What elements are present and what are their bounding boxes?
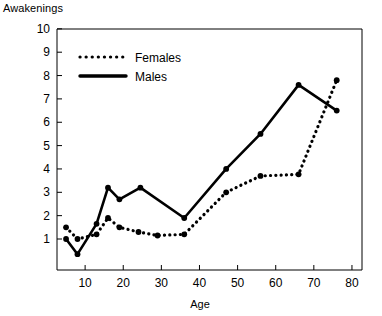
data-point: [223, 166, 229, 172]
data-point: [334, 77, 340, 83]
y-axis-tick-labels: 12345678910: [37, 22, 51, 246]
y-tick-label: 1: [43, 232, 50, 246]
data-point: [94, 221, 100, 227]
x-tick-label: 20: [117, 276, 131, 290]
data-point: [105, 185, 111, 191]
awakenings-line-chart: Awakenings 12345678910 1020304050607080 …: [0, 0, 382, 316]
x-tick-label: 60: [269, 276, 283, 290]
data-series-layer: [63, 77, 339, 257]
data-point: [181, 231, 187, 237]
x-tick-label: 30: [155, 276, 169, 290]
data-point: [117, 196, 123, 202]
data-point: [105, 215, 111, 221]
x-tick-label: 80: [345, 276, 359, 290]
data-point: [258, 173, 264, 179]
data-point: [155, 233, 161, 239]
y-tick-label: 7: [43, 92, 50, 106]
legend-label-males: Males: [135, 70, 167, 84]
data-point: [75, 251, 81, 257]
data-point: [223, 189, 229, 195]
data-point: [75, 236, 81, 242]
y-axis-ticks: [57, 29, 62, 239]
data-point: [258, 131, 264, 137]
chart-legend: FemalesMales: [80, 51, 181, 84]
y-tick-label: 5: [43, 139, 50, 153]
x-axis-ticks: [85, 265, 352, 270]
series-males: [63, 82, 339, 257]
data-point: [296, 82, 302, 88]
data-point: [181, 215, 187, 221]
x-tick-label: 50: [231, 276, 245, 290]
data-point: [117, 224, 123, 230]
y-tick-label: 3: [43, 185, 50, 199]
series-line: [66, 80, 337, 239]
y-tick-label: 9: [43, 45, 50, 59]
x-axis-title: Age: [190, 298, 210, 310]
series-females: [63, 77, 339, 242]
y-tick-label: 2: [43, 209, 50, 223]
axis-frame: [57, 29, 362, 270]
x-axis-tick-labels: 1020304050607080: [78, 276, 359, 290]
x-tick-label: 70: [307, 276, 321, 290]
data-point: [136, 229, 142, 235]
chart-canvas: 12345678910 1020304050607080 FemalesMale…: [0, 0, 382, 316]
data-point: [63, 224, 69, 230]
y-tick-label: 6: [43, 115, 50, 129]
data-point: [137, 185, 143, 191]
y-tick-label: 4: [43, 162, 50, 176]
x-tick-label: 10: [78, 276, 92, 290]
data-point: [94, 231, 100, 237]
data-point: [334, 108, 340, 114]
series-line: [66, 85, 337, 254]
y-tick-label: 8: [43, 69, 50, 83]
y-tick-label: 10: [37, 22, 51, 36]
legend-label-females: Females: [135, 51, 181, 65]
x-tick-label: 40: [193, 276, 207, 290]
data-point: [296, 171, 302, 177]
data-point: [63, 236, 69, 242]
